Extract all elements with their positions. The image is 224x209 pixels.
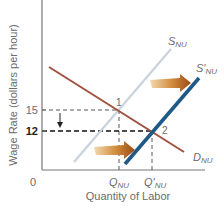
supply-label: SNU xyxy=(168,35,187,49)
y-tick-12: 12 xyxy=(26,125,38,137)
demand-label: DNU xyxy=(193,151,213,165)
shift-arrow-lower xyxy=(94,141,135,159)
x-tick-qnu-prime: Q'NU xyxy=(144,176,166,190)
labor-market-diagram: 15 12 0 Wage Rate (dollars per hour) Qua… xyxy=(0,0,224,209)
x-axis-label: Quantity of Labor xyxy=(86,190,171,202)
equilibrium-point-2: 2 xyxy=(162,125,168,136)
y-axis-label: Wage Rate (dollars per hour) xyxy=(7,24,19,165)
x-tick-qnu: QNU xyxy=(109,176,129,190)
supply-curve xyxy=(74,49,171,162)
origin-label: 0 xyxy=(30,176,36,188)
wage-drop-arrowhead xyxy=(57,122,63,128)
equilibrium-point-1: 1 xyxy=(116,97,122,108)
shift-arrow-upper xyxy=(150,74,191,92)
y-tick-15: 15 xyxy=(26,104,38,116)
supply-shifted-label: S'NU xyxy=(196,62,217,76)
